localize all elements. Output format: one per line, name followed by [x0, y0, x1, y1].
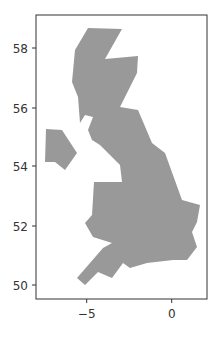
x-tick-label: −5: [78, 307, 96, 321]
y-tick-label: 52: [13, 220, 28, 234]
y-tick-label: 54: [13, 160, 28, 174]
y-tick-label: 50: [13, 279, 28, 293]
y-tick-label: 56: [13, 102, 28, 116]
x-tick-label: 0: [168, 307, 176, 321]
y-tick-label: 58: [13, 42, 28, 56]
map-figure: 50 52 54 56 58 −5 0: [0, 0, 218, 337]
